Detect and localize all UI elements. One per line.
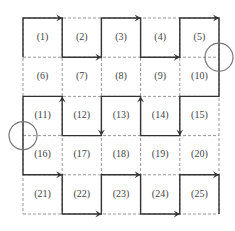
cell-label: (13) [113, 109, 130, 121]
path-grid-svg: (1)(2)(3)(4)(5)(6)(7)(8)(9)(10)(11)(12)(… [0, 0, 235, 231]
cell-label: (17) [73, 148, 90, 160]
cell-label: (19) [152, 148, 169, 160]
cell-label: (15) [191, 109, 208, 121]
cell-label: (21) [34, 188, 51, 200]
cell-label: (11) [34, 109, 50, 121]
cell-label: (20) [191, 148, 208, 160]
cell-label: (8) [115, 70, 127, 82]
cell-label: (4) [154, 31, 166, 43]
cell-label: (10) [191, 70, 208, 82]
cell-label: (3) [115, 31, 127, 43]
cell-label: (1) [37, 31, 49, 43]
cell-label: (9) [154, 70, 166, 82]
cell-label: (7) [76, 70, 88, 82]
cell-label: (22) [73, 188, 90, 200]
cell-label: (16) [34, 148, 51, 160]
cell-label: (24) [152, 188, 169, 200]
grid-diagram: (1)(2)(3)(4)(5)(6)(7)(8)(9)(10)(11)(12)(… [0, 0, 235, 231]
cell-label: (18) [113, 148, 130, 160]
cell-label: (2) [76, 31, 88, 43]
cell-label: (23) [113, 188, 130, 200]
cell-label: (14) [152, 109, 169, 121]
cell-label: (5) [194, 31, 206, 43]
cell-label: (12) [73, 109, 90, 121]
cell-label: (6) [37, 70, 49, 82]
cell-label: (25) [191, 188, 208, 200]
